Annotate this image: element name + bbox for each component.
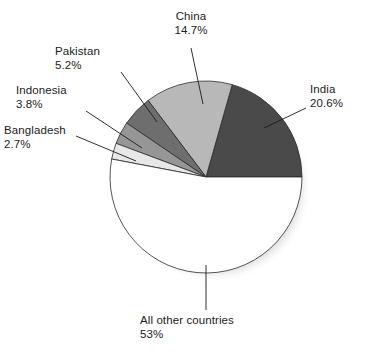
slice-label-china-value: 14.7% <box>155 24 227 38</box>
slice-label-pakistan: Pakistan 5.2% <box>55 45 125 72</box>
slice-label-indonesia-name: Indonesia <box>16 84 96 98</box>
slice-label-all-other-countries: All other countries 53% <box>140 314 270 341</box>
slice-label-china: China 14.7% <box>155 10 227 37</box>
slice-label-india: India 20.6% <box>310 83 372 110</box>
slice-label-bangladesh-value: 2.7% <box>4 138 94 152</box>
slice-label-all-other-countries-name: All other countries <box>140 314 270 328</box>
slice-label-all-other-countries-value: 53% <box>140 328 270 342</box>
slice-label-indonesia-value: 3.8% <box>16 98 96 112</box>
slice-label-bangladesh: Bangladesh 2.7% <box>4 124 94 151</box>
slice-label-india-value: 20.6% <box>310 97 372 111</box>
slice-label-india-name: India <box>310 83 372 97</box>
slice-label-pakistan-name: Pakistan <box>55 45 125 59</box>
slice-label-pakistan-value: 5.2% <box>55 59 125 73</box>
slice-label-bangladesh-name: Bangladesh <box>4 124 94 138</box>
slice-label-china-name: China <box>155 10 227 24</box>
slice-label-indonesia: Indonesia 3.8% <box>16 84 96 111</box>
pie-slices <box>110 81 302 273</box>
pie-chart: China 14.7% India 20.6% Pakistan 5.2% In… <box>0 0 374 359</box>
